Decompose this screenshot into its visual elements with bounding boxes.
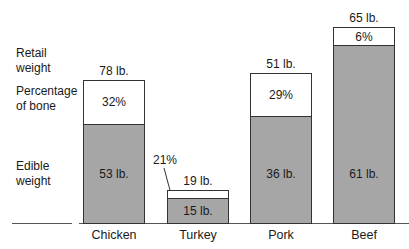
row-label-percentage-of-bone: Percentage of bone: [16, 84, 77, 114]
total-label: 78 lb.: [83, 64, 145, 78]
edible-segment: 61 lb.: [333, 45, 395, 224]
category-label: Turkey: [158, 228, 238, 242]
row-label-retail-weight: Retail weight: [16, 46, 51, 76]
edible-segment: 15 lb.: [167, 198, 229, 224]
edible-weight-label: 61 lb.: [334, 167, 394, 181]
total-label: 65 lb.: [333, 11, 395, 25]
bone-segment: 32%: [83, 80, 145, 125]
bone-percent: 29%: [251, 88, 311, 102]
edible-weight-label: 36 lb.: [251, 167, 311, 181]
edible-segment: 53 lb.: [83, 124, 145, 224]
edible-weight-label: 53 lb.: [84, 167, 144, 181]
bone-segment: 6%: [333, 27, 395, 46]
edible-segment: 36 lb.: [250, 116, 312, 224]
category-label: Pork: [241, 228, 321, 242]
total-label: 51 lb.: [250, 57, 312, 71]
edible-weight-label: 15 lb.: [168, 204, 228, 218]
total-label: 19 lb.: [167, 174, 229, 188]
bone-percent: 32%: [84, 95, 144, 109]
bone-percent: 6%: [334, 30, 394, 44]
bone-segment: 29%: [250, 73, 312, 117]
legend-baseline: [12, 223, 72, 224]
bone-percent-callout: 21%: [153, 153, 177, 167]
category-label: Beef: [324, 228, 404, 242]
row-label-edible-weight: Edible weight: [16, 159, 51, 189]
category-label: Chicken: [74, 228, 154, 242]
